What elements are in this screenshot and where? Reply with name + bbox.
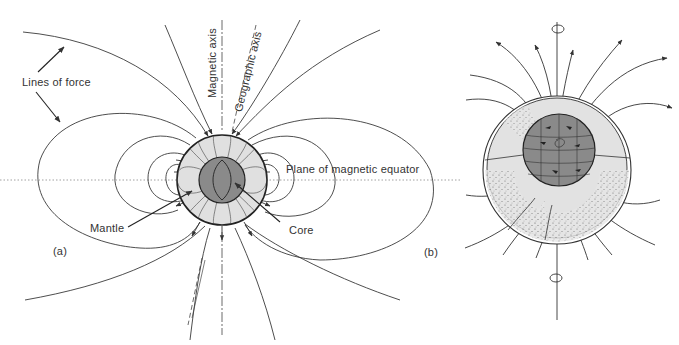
magnetic-equator-label: Plane of magnetic equator [286,163,419,175]
mantle-pointer [128,191,192,227]
rotation-arrow-bottom-icon [550,274,562,282]
panel-a-diagram [0,20,460,340]
panel-b-label: (b) [424,246,438,258]
magnetic-axis-label: Magnetic axis [206,28,218,98]
lines-of-force-label: Lines of force [22,76,91,88]
rotation-arrow-top-icon [552,25,564,33]
lines-of-force-pointer-up [38,47,64,72]
mantle-label: Mantle [90,222,124,234]
panel-a-label: (a) [53,245,67,257]
lines-of-force-pointer-down [36,92,60,122]
core-shape [199,157,245,203]
core-label: Core [289,224,314,236]
panel-b-diagram [465,22,672,320]
